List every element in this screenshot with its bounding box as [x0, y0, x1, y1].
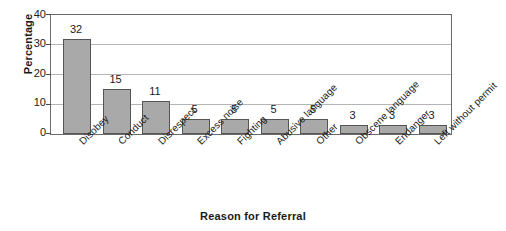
x-axis-title: Reason for Referral — [0, 210, 506, 222]
y-tick-label: 10 — [24, 97, 46, 108]
bar-value-label: 32 — [62, 24, 90, 35]
bar-value-label: 15 — [102, 74, 130, 85]
y-tick-label: 20 — [24, 68, 46, 79]
bar-chart: Percentage 40 30 20 10 0 3215115555333 D… — [0, 0, 506, 231]
gridline — [51, 44, 451, 45]
y-tick-label: 40 — [24, 9, 46, 20]
bar-value-label: 11 — [141, 86, 169, 97]
bar-value-label: 5 — [260, 104, 288, 115]
y-tick-label: 0 — [24, 127, 46, 138]
bar-value-label: 3 — [339, 110, 367, 121]
bar — [63, 39, 91, 134]
y-tick-mark — [46, 133, 51, 134]
y-tick-mark — [46, 14, 51, 15]
y-tick-label: 30 — [24, 38, 46, 49]
y-axis-tick-labels: 40 30 20 10 0 — [22, 0, 46, 231]
